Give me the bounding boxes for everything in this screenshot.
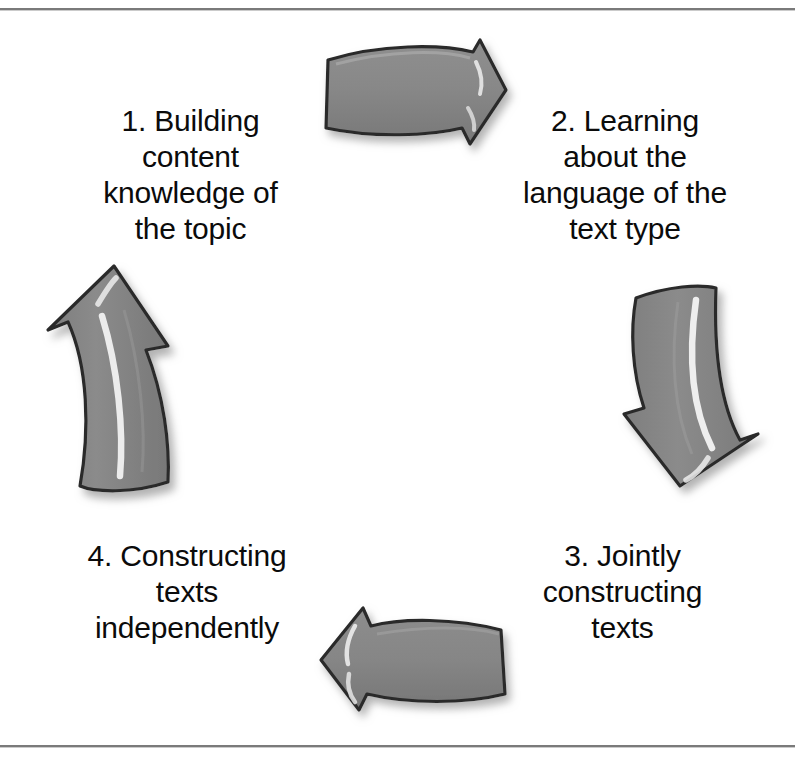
arrow-right-icon xyxy=(310,22,510,162)
bottom-divider-rule xyxy=(0,745,795,747)
stage-label-4-constructing-texts-independently: 4. Constructing texts independently xyxy=(62,538,312,646)
stage-label-2-learning-about-language: 2. Learning about the language of the te… xyxy=(500,103,750,247)
arrow-left-icon xyxy=(305,586,515,721)
diagram-canvas: 1. Building content knowledge of the top… xyxy=(0,0,795,765)
arrow-down-icon xyxy=(608,272,768,502)
arrow-up-icon xyxy=(28,250,208,505)
top-divider-rule xyxy=(0,8,795,10)
stage-label-1-building-content-knowledge: 1. Building content knowledge of the top… xyxy=(78,103,303,247)
stage-label-3-jointly-constructing-texts: 3. Jointly constructing texts xyxy=(505,538,740,646)
